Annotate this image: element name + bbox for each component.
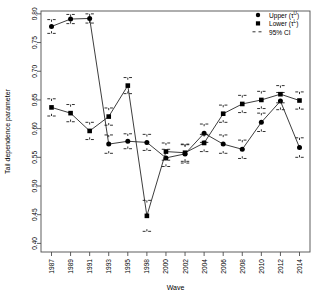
x-tick-label: 1998 — [143, 259, 150, 274]
legend-marker-upper — [256, 13, 260, 17]
data-point-lower — [183, 150, 188, 155]
data-point-lower — [297, 98, 302, 103]
x-tick-label: 1987 — [48, 259, 55, 274]
ci-cap — [66, 21, 74, 23]
ci-cap — [219, 135, 227, 137]
ci-cap — [124, 134, 132, 136]
y-tick-label: 0.60 — [31, 122, 38, 135]
data-point-lower — [126, 83, 131, 88]
ci-cap — [295, 155, 303, 157]
y-tick-label: 0.50 — [31, 179, 38, 192]
ci-cap — [257, 113, 265, 115]
y-axis-title: Tail dependence parameter — [4, 88, 12, 174]
data-point-lower — [145, 214, 150, 219]
ci-cap — [276, 86, 284, 88]
data-point-lower — [278, 92, 283, 97]
ci-cap — [162, 164, 170, 166]
ci-cap — [238, 156, 246, 158]
ci-cap — [257, 129, 265, 131]
legend-marker-lower — [256, 21, 260, 25]
ci-cap — [105, 135, 113, 137]
y-tick-label: 0.80 — [31, 7, 38, 20]
y-tick-label: 0.45 — [31, 208, 38, 221]
ci-cap — [124, 78, 132, 80]
ci-cap — [162, 158, 170, 160]
ci-cap — [105, 108, 113, 110]
ci-cap — [295, 107, 303, 109]
x-tick-label: 1995 — [124, 259, 131, 274]
series-upper — [47, 14, 303, 167]
x-tick-label: 2012 — [277, 259, 284, 274]
ci-cap — [181, 144, 189, 146]
ci-cap — [85, 21, 93, 23]
x-axis: 1987198919911993199519982000200220042006… — [48, 252, 303, 274]
data-point-upper — [144, 140, 149, 145]
ci-cap — [66, 14, 74, 16]
data-point-upper — [125, 139, 130, 144]
y-tick-label: 0.70 — [31, 65, 38, 78]
ci-cap — [143, 200, 151, 202]
x-tick-label: 1993 — [105, 259, 112, 274]
x-tick-label: 2006 — [220, 259, 227, 274]
ci-cap — [219, 105, 227, 107]
legend-label: 95% CI — [269, 28, 291, 35]
data-point-upper — [221, 142, 226, 147]
ci-cap — [105, 151, 113, 153]
x-tick-label: 2002 — [182, 259, 189, 274]
x-axis-title: Wave — [167, 284, 185, 291]
data-point-lower — [68, 111, 73, 116]
data-point-lower — [164, 149, 169, 154]
ci-cap — [238, 140, 246, 142]
ci-cap — [219, 120, 227, 122]
ci-cap — [66, 105, 74, 107]
data-point-upper — [106, 142, 111, 147]
ci-cap — [47, 31, 55, 33]
x-tick-label: 2008 — [239, 259, 246, 274]
ci-cap — [276, 101, 284, 103]
ci-cap — [143, 148, 151, 150]
ci-cap — [200, 124, 208, 126]
ci-cap — [200, 149, 208, 151]
ci-cap — [162, 143, 170, 145]
ci-cap — [238, 95, 246, 97]
plot-frame — [41, 11, 310, 252]
ci-cap — [66, 120, 74, 122]
ci-cap — [47, 20, 55, 22]
data-point-upper — [49, 24, 54, 29]
data-point-upper — [68, 17, 73, 22]
x-tick-label: 2010 — [258, 259, 265, 274]
ci-cap — [85, 14, 93, 16]
y-tick-label: 0.55 — [31, 151, 38, 164]
series-lower — [47, 78, 303, 232]
data-point-lower — [221, 111, 226, 116]
data-point-lower — [87, 129, 92, 134]
y-axis: 0.400.450.500.550.600.650.700.750.80 — [31, 7, 41, 250]
ci-cap — [238, 110, 246, 112]
ci-cap — [85, 137, 93, 139]
chart-legend: Upper (τU)Lower (τL)95% CI — [253, 10, 300, 35]
series-line — [52, 86, 300, 216]
ci-cap — [219, 151, 227, 153]
x-tick-label: 2000 — [162, 259, 169, 274]
data-point-lower — [259, 98, 264, 103]
ci-cap — [85, 122, 93, 124]
ci-cap — [143, 229, 151, 231]
ci-cap — [181, 159, 189, 161]
ci-cap — [47, 114, 55, 116]
data-point-lower — [202, 141, 207, 146]
ci-cap — [257, 91, 265, 93]
ci-cap — [143, 134, 151, 136]
data-point-upper — [259, 120, 264, 125]
chart-container: 0.400.450.500.550.600.650.700.750.80Tail… — [0, 0, 328, 297]
y-tick-label: 0.40 — [31, 237, 38, 250]
y-tick-label: 0.75 — [31, 36, 38, 49]
ci-cap — [124, 91, 132, 93]
x-tick-label: 2004 — [201, 259, 208, 274]
data-point-upper — [87, 16, 92, 21]
data-point-upper — [297, 145, 302, 150]
x-tick-label: 1991 — [86, 259, 93, 274]
data-point-lower — [49, 105, 54, 110]
ci-cap — [295, 92, 303, 94]
tail-dependence-line-chart: 0.400.450.500.550.600.650.700.750.80Tail… — [0, 0, 328, 297]
x-tick-label: 1989 — [67, 259, 74, 274]
